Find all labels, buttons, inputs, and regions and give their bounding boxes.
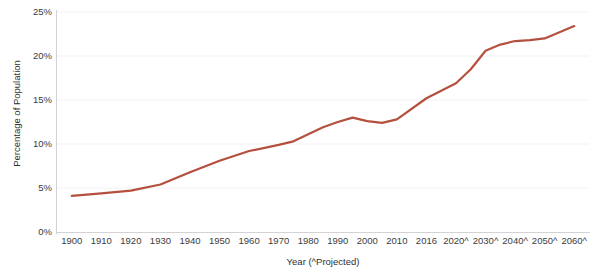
x-tick-label: 2016: [416, 236, 437, 246]
x-tick-label: 1970: [268, 236, 289, 246]
x-tick-label: 2030^: [473, 236, 499, 246]
y-tick-label: 20%: [6, 51, 52, 61]
x-tick-label: 1950: [209, 236, 230, 246]
x-tick-label: 1980: [298, 236, 319, 246]
y-tick-label: 0%: [6, 227, 52, 237]
x-tick-label: 1960: [239, 236, 260, 246]
x-tick-label: 2000: [357, 236, 378, 246]
x-tick-label: 2050^: [532, 236, 558, 246]
x-tick-label: 2040^: [502, 236, 528, 246]
data-series-line: [72, 26, 574, 196]
x-tick-label: 1920: [120, 236, 141, 246]
data-series-layer: [57, 12, 589, 232]
x-tick-label: 1940: [179, 236, 200, 246]
y-tick-label: 5%: [6, 183, 52, 193]
x-tick-label: 1930: [150, 236, 171, 246]
x-axis-title: Year (^Projected): [57, 256, 589, 267]
plot-area: [57, 12, 589, 232]
x-axis-line: [56, 232, 590, 233]
x-axis-tick-labels: 1900191019201930194019501960197019801990…: [57, 236, 589, 250]
y-tick-label: 10%: [6, 139, 52, 149]
x-tick-label: 1900: [61, 236, 82, 246]
x-tick-label: 2020^: [443, 236, 469, 246]
x-tick-label: 2010: [386, 236, 407, 246]
x-tick-label: 1910: [91, 236, 112, 246]
y-axis-tick-labels: 0%5%10%15%20%25%: [0, 0, 52, 278]
x-tick-label: 1990: [327, 236, 348, 246]
x-tick-label: 2060^: [561, 236, 587, 246]
y-tick-label: 25%: [6, 7, 52, 17]
line-chart: Percentage of U.S. Population Age 65 and…: [0, 0, 596, 278]
y-tick-label: 15%: [6, 95, 52, 105]
